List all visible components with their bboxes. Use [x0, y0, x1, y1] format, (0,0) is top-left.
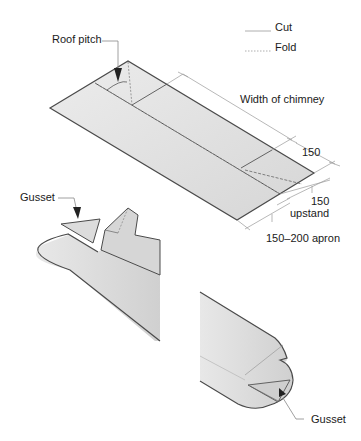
dim-150-upstand-value: 150: [311, 196, 329, 207]
dim-apron-label: 150–200 apron: [266, 233, 340, 244]
legend: [245, 31, 271, 51]
flat-sheet: [50, 61, 314, 220]
dim-upstand-label: upstand: [290, 208, 329, 219]
roof-pitch-label: Roof pitch: [52, 34, 102, 45]
gusset-top-label: Gusset: [20, 192, 55, 203]
width-of-chimney-label: Width of chimney: [240, 94, 324, 105]
gusset-bottom-leader: [279, 388, 304, 419]
legend-fold-label: Fold: [275, 42, 296, 53]
left-bent-flashing: [36, 208, 160, 341]
gusset-bottom-label: Gusset: [311, 414, 346, 425]
gusset-top-leader: [58, 198, 81, 219]
legend-cut-label: Cut: [275, 22, 292, 33]
dim-150-top-label: 150: [302, 147, 320, 158]
chimney-flashing-diagram: [0, 0, 361, 441]
